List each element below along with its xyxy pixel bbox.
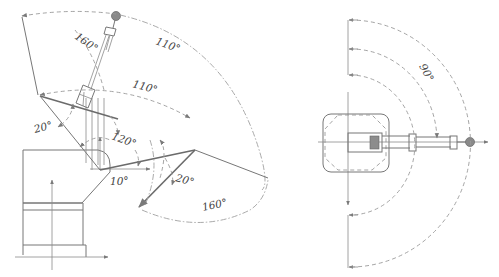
angle-label-10: 10° <box>110 175 129 187</box>
top-view: 90° <box>318 20 488 268</box>
arc-lower-swing-2 <box>160 140 164 178</box>
arm-position-b <box>40 96 100 170</box>
arc-top-left <box>22 11 116 16</box>
angle-label-120: 120° <box>110 130 138 150</box>
arc-10 <box>135 150 139 166</box>
top-view-end-effector <box>466 138 475 147</box>
arm-position-a <box>40 96 118 119</box>
angle-label-90: 90° <box>417 61 436 83</box>
angle-label-110-mid: 110° <box>131 77 159 95</box>
arm-position-d <box>195 150 268 178</box>
arm-position-c <box>100 150 195 170</box>
angle-label-160-bottom: 160° <box>201 196 228 213</box>
angle-label-160-top: 160° <box>73 30 101 54</box>
arc-120-inner <box>80 138 110 147</box>
top-view-joint-2 <box>450 136 457 149</box>
arc-20-left <box>58 104 73 127</box>
angle-label-20-right: 20° <box>174 171 196 188</box>
arc-20-right <box>165 158 173 185</box>
outer-reach-line <box>22 17 38 95</box>
robot-workspace-diagram: 160° 110° 110° 20° 120° 10° 20° 160° <box>0 0 499 277</box>
top-view-arc-outer <box>350 20 470 267</box>
end-effector-ball <box>112 12 121 21</box>
forearm <box>76 12 121 109</box>
robot-base <box>15 150 110 270</box>
top-view-motor <box>370 136 379 149</box>
angle-label-20-left: 20° <box>31 119 53 136</box>
top-view-joint-1 <box>409 134 416 151</box>
arc-mid-110 <box>40 90 190 118</box>
upper-arm <box>86 98 104 170</box>
arc-outer-110 <box>120 15 265 190</box>
side-view: 160° 110° 110° 20° 120° 10° 20° 160° <box>15 11 268 270</box>
